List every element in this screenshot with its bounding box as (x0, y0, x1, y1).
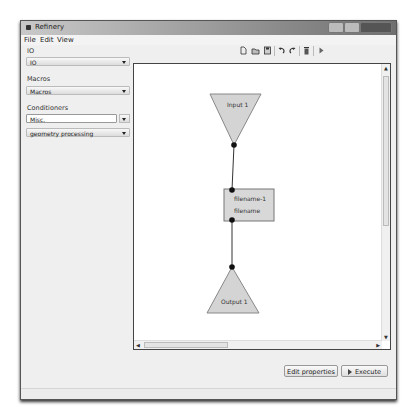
maximize-button[interactable] (344, 22, 360, 33)
process-in-port[interactable] (229, 187, 235, 193)
horizontal-scrollbar[interactable]: ◀ ▶ (134, 340, 382, 349)
sidebar: IO IO Macros Macros Conditioners Misc. g… (24, 46, 132, 386)
scroll-up-icon[interactable]: ▲ (384, 65, 388, 71)
app-window: Refinery File Edit View IO IO Macros Mac… (20, 20, 397, 400)
toolbar-separator (313, 46, 314, 56)
execute-label: Execute (355, 368, 381, 376)
chevron-down-icon (122, 61, 126, 64)
macros-combo-value: Macros (30, 88, 51, 95)
save-icon[interactable] (264, 46, 271, 55)
macros-label: Macros (27, 75, 50, 83)
graph-canvas[interactable]: Input 1 filename-1 filename Output 1 ▲ ▼… (133, 63, 391, 350)
output-node-label: Output 1 (221, 298, 248, 305)
status-bar (21, 388, 396, 399)
io-combo[interactable]: IO (26, 57, 130, 66)
output-port[interactable] (229, 264, 235, 270)
process-node-label-2: filename (234, 207, 260, 214)
edit-properties-label: Edit properties (287, 368, 335, 376)
menu-edit[interactable]: Edit (40, 36, 54, 44)
redo-icon[interactable] (289, 46, 296, 55)
io-label: IO (27, 47, 34, 55)
chevron-down-icon (122, 132, 126, 135)
conditioners-combo-value: geometry processing (30, 130, 93, 137)
input-node-label: Input 1 (227, 101, 248, 108)
edit-properties-button[interactable]: Edit properties (284, 365, 338, 377)
edge-input-process (232, 145, 234, 190)
close-button[interactable] (360, 22, 392, 33)
window-title: Refinery (35, 23, 64, 31)
conditioners-category-dropdown[interactable] (119, 114, 130, 123)
execute-button[interactable]: Execute (341, 365, 388, 377)
conditioners-category-input[interactable]: Misc. (26, 114, 117, 123)
new-icon[interactable] (240, 46, 247, 55)
delete-icon[interactable] (303, 46, 310, 55)
chevron-down-icon (122, 118, 126, 121)
conditioners-category-value: Misc. (30, 116, 45, 123)
run-icon[interactable] (318, 46, 325, 55)
play-icon (348, 369, 352, 375)
vertical-scroll-thumb[interactable] (383, 76, 389, 226)
conditioners-label: Conditioners (27, 104, 68, 112)
open-icon[interactable] (251, 46, 260, 55)
vertical-scrollbar[interactable]: ▲ ▼ (381, 64, 390, 341)
input-port[interactable] (231, 142, 237, 148)
undo-icon[interactable] (278, 46, 285, 55)
title-bar[interactable]: Refinery (21, 21, 396, 35)
process-node[interactable] (224, 189, 274, 221)
chevron-down-icon (122, 90, 126, 93)
process-out-port[interactable] (229, 217, 235, 223)
toolbar (133, 43, 393, 59)
scroll-down-icon[interactable]: ▼ (384, 334, 388, 340)
toolbar-separator (274, 46, 275, 56)
output-node[interactable] (207, 267, 259, 313)
menu-view[interactable]: View (57, 36, 74, 44)
process-node-label-1: filename-1 (234, 195, 266, 202)
scroll-left-icon[interactable]: ◀ (136, 342, 140, 348)
io-combo-value: IO (30, 59, 37, 66)
horizontal-scroll-thumb[interactable] (144, 342, 228, 348)
app-icon (26, 25, 31, 30)
menu-file[interactable]: File (24, 36, 36, 44)
toolbar-separator (299, 46, 300, 56)
scroll-right-icon[interactable]: ▶ (376, 342, 380, 348)
conditioners-combo[interactable]: geometry processing (26, 128, 130, 137)
macros-combo[interactable]: Macros (26, 86, 130, 95)
minimize-button[interactable] (328, 22, 344, 33)
